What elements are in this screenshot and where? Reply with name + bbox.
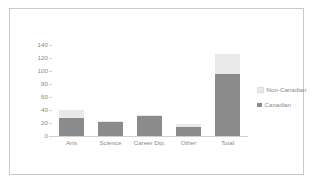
bar-segment-canadian[interactable] xyxy=(59,118,84,136)
bar-segment-canadian[interactable] xyxy=(176,127,201,136)
legend-item-non-canadian[interactable]: Non-Canadian xyxy=(257,86,315,94)
chart-frame: 140120100806040200 Non-CanadianCanadian … xyxy=(9,8,304,175)
legend-item-canadian[interactable]: Canadian xyxy=(257,101,315,109)
bar-science[interactable] xyxy=(98,121,123,136)
plot-area xyxy=(52,45,247,136)
y-tick-label-80: 80 xyxy=(14,81,48,87)
bar-total[interactable] xyxy=(215,54,240,136)
bar-segment-non-canadian[interactable] xyxy=(215,54,240,74)
bar-career-dip[interactable] xyxy=(137,115,162,136)
legend-swatch-icon-non-canadian xyxy=(257,87,264,94)
y-tick-label-60: 60 xyxy=(14,94,48,100)
y-axis: 140120100806040200 xyxy=(10,9,48,186)
bar-segment-canadian[interactable] xyxy=(98,122,123,136)
x-axis-line xyxy=(52,136,248,137)
legend-swatch-icon-canadian xyxy=(257,103,262,108)
y-tick-label-100: 100 xyxy=(14,68,48,74)
chart-legend: Non-CanadianCanadian xyxy=(257,86,315,116)
y-tick-label-120: 120 xyxy=(14,55,48,61)
bar-segment-canadian[interactable] xyxy=(137,116,162,136)
y-tick-label-20: 20 xyxy=(14,120,48,126)
y-tick-label-140: 140 xyxy=(14,42,48,48)
bar-arts[interactable] xyxy=(59,110,84,136)
legend-label-non-canadian: Non-Canadian xyxy=(267,87,307,93)
y-tick-label-40: 40 xyxy=(14,107,48,113)
bar-other[interactable] xyxy=(176,124,201,136)
legend-label-canadian: Canadian xyxy=(265,102,292,108)
x-tick-label-total: Total xyxy=(198,139,258,146)
bar-segment-non-canadian[interactable] xyxy=(59,110,84,118)
bar-segment-canadian[interactable] xyxy=(215,74,240,136)
